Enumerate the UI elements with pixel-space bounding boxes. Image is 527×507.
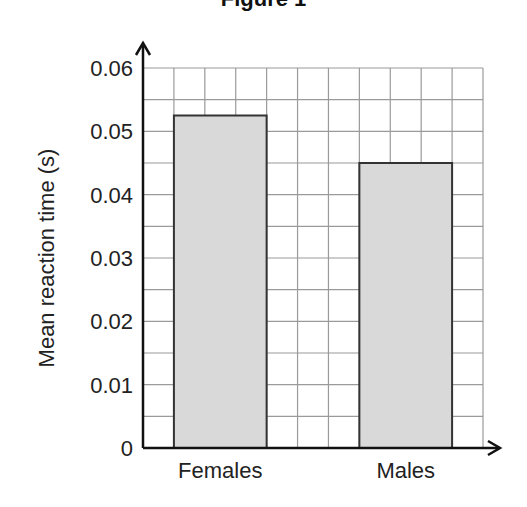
bars: [174, 116, 452, 449]
y-tick-label: 0: [121, 436, 133, 461]
x-label-males: Males: [376, 458, 435, 483]
y-tick-label: 0.06: [90, 56, 133, 81]
y-tick-label: 0.02: [90, 309, 133, 334]
bar-chart: 00.010.020.030.040.050.06 FemalesMales M…: [0, 0, 527, 507]
y-tick-label: 0.01: [90, 373, 133, 398]
bar-females: [174, 116, 267, 449]
y-tick-label: 0.05: [90, 119, 133, 144]
x-category-labels: FemalesMales: [178, 458, 435, 483]
y-tick-label: 0.04: [90, 183, 133, 208]
y-axis-title: Mean reaction time (s): [34, 149, 59, 368]
y-tick-label: 0.03: [90, 246, 133, 271]
x-label-females: Females: [178, 458, 262, 483]
y-tick-labels: 00.010.020.030.040.050.06: [90, 56, 133, 461]
bar-males: [359, 163, 452, 448]
